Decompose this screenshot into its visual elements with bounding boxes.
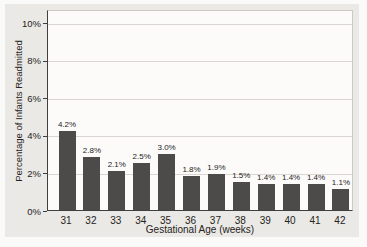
x-tick-label: 42 xyxy=(327,215,353,227)
y-axis-title: Percentage of Infants Readmitted xyxy=(13,11,27,212)
x-tick-label: 39 xyxy=(252,215,278,227)
x-tick-label: 40 xyxy=(277,215,303,227)
bar-value-label: 1.1% xyxy=(323,178,359,187)
x-tick-label: 36 xyxy=(178,215,204,227)
x-tick-label: 34 xyxy=(128,215,154,227)
x-tick-label: 33 xyxy=(103,215,129,227)
x-tick-label: 35 xyxy=(153,215,179,227)
bar xyxy=(308,184,325,210)
y-tick-label: 4% xyxy=(7,130,41,141)
bar xyxy=(233,182,250,210)
y-tick-mark xyxy=(43,61,47,62)
y-tick-mark xyxy=(43,98,47,99)
x-tick-label: 31 xyxy=(53,215,79,227)
gridline xyxy=(48,24,352,25)
gridline xyxy=(48,61,352,62)
bar xyxy=(332,189,349,210)
y-tick-mark xyxy=(43,136,47,137)
y-tick-mark xyxy=(43,173,47,174)
x-tick-label: 41 xyxy=(302,215,328,227)
bar xyxy=(108,171,125,210)
gridline xyxy=(48,136,352,137)
bar-value-label: 2.5% xyxy=(124,152,160,161)
bar xyxy=(183,176,200,210)
bar xyxy=(133,163,150,210)
y-tick-label: 8% xyxy=(7,55,41,66)
y-tick-mark xyxy=(43,211,47,212)
bar-value-label: 4.2% xyxy=(49,120,85,129)
bar xyxy=(258,184,275,210)
bar xyxy=(283,184,300,210)
bar xyxy=(158,154,175,210)
x-tick-label: 32 xyxy=(78,215,104,227)
bar xyxy=(59,131,76,210)
page-background: { "figure": { "background_color": "#ebe9… xyxy=(0,0,367,247)
y-tick-label: 10% xyxy=(7,18,41,29)
y-tick-label: 2% xyxy=(7,168,41,179)
x-tick-label: 38 xyxy=(227,215,253,227)
bar-value-label: 3.0% xyxy=(149,143,185,152)
gridline xyxy=(48,99,352,100)
y-tick-label: 6% xyxy=(7,93,41,104)
x-tick-label: 37 xyxy=(202,215,228,227)
y-tick-mark xyxy=(43,23,47,24)
y-tick-label: 0% xyxy=(7,206,41,217)
chart-figure: Percentage of Infants Readmitted 4.2%2.8… xyxy=(5,4,359,237)
bar-value-label: 2.8% xyxy=(74,146,110,155)
plot-area: 4.2%2.8%2.1%2.5%3.0%1.8%1.9%1.5%1.4%1.4%… xyxy=(47,10,353,211)
